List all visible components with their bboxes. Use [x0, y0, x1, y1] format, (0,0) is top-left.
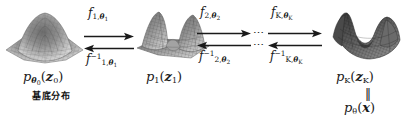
caption-base-distribution-cjk: 基底分布: [32, 89, 70, 102]
arrow-forward-f1: [84, 32, 134, 41]
transform-label-f1-forward: f1,θ1: [88, 7, 108, 19]
p1-arg: z: [165, 69, 172, 84]
pK-paren-close: ): [369, 69, 374, 84]
arrow-forward-fK: [268, 29, 322, 38]
ptheta-arg: x: [362, 100, 370, 115]
f1-inverse-power: −1: [90, 52, 101, 61]
p1-paren-close: ): [177, 69, 182, 84]
normalizing-flow-figure: f1,θ1 f−11,θ1: [0, 0, 408, 123]
fK-inverse-power: −1: [274, 49, 285, 58]
equals-parallel-sign: ‖: [365, 88, 370, 100]
ellipsis-inverse: ⋯: [253, 40, 265, 51]
transform-label-fK-inverse: f−1K,θK: [270, 50, 303, 62]
ellipsis-forward: ⋯: [253, 28, 265, 39]
pK-arg: z: [355, 69, 362, 84]
caption-final-density: pK(zK): [336, 70, 374, 83]
f1-inverse-theta-index: 1: [114, 62, 118, 68]
arrow-forward-f2: [197, 29, 251, 38]
final-density-surface: [330, 4, 406, 68]
f1-forward-theta-index: 1: [105, 16, 109, 22]
f2-inverse-theta-index: 2: [227, 59, 231, 65]
f2-inverse-power: −1: [203, 49, 214, 58]
fK-forward-theta-index: K: [288, 15, 292, 21]
caption-base-density: pθ0(z0): [23, 70, 63, 83]
transform-label-f2-forward: f2,θ2: [200, 6, 220, 18]
caption-model-density: pθ(x): [344, 101, 375, 114]
transform-label-f2-inverse: f−12,θ2: [199, 50, 230, 62]
ptheta-paren-close: ): [370, 100, 375, 115]
fK-inverse-theta-index: K: [298, 59, 302, 65]
p0-paren-close: ): [58, 69, 63, 84]
transform-label-f1-inverse: f−11,θ1: [86, 53, 117, 65]
base-density-surface: [4, 6, 86, 66]
caption-intermediate-density: p1(z1): [146, 70, 182, 83]
transform-label-fK-forward: fK,θK: [271, 6, 293, 18]
f2-forward-theta-index: 2: [217, 15, 221, 21]
